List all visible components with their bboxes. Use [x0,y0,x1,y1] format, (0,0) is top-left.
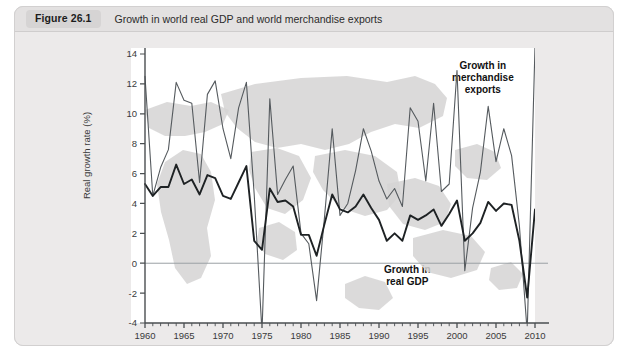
x-tick-label: 1995 [407,330,428,341]
x-tick-label: 2005 [485,330,506,341]
figure-page: Figure 26.1 Growth in world real GDP and… [0,0,632,360]
x-tick-label: 1960 [134,330,155,341]
y-tick-label: -2 [129,288,137,299]
x-tick-label: 1990 [368,330,389,341]
x-tick-label: 1975 [251,330,272,341]
chart-svg: -4-202468101214 196019651970197519801985… [15,32,614,346]
figure-number-badge: Figure 26.1 [26,10,101,28]
y-tick-label: 2 [132,228,137,239]
world-map-watermark [145,76,523,310]
y-tick-label: 0 [132,258,137,269]
x-tick-labels: 1960196519701975198019851990199520002005… [134,330,545,341]
y-tick-label: -4 [129,317,137,328]
y-tick-label: 14 [126,48,137,59]
x-tick-label: 1985 [329,330,350,341]
figure-caption-bar: Figure 26.1 Growth in world real GDP and… [14,6,614,32]
y-tick-label: 4 [132,198,137,209]
y-tick-label: 10 [126,108,137,119]
y-tick-label: 12 [126,78,137,89]
x-tick-label: 1965 [173,330,194,341]
y-tick-label: 6 [132,168,137,179]
chart-container: Real growth rate (%) Growth in merchandi… [14,32,614,346]
x-tick-label: 2000 [446,330,467,341]
x-tick-label: 1980 [290,330,311,341]
x-tick-label: 1970 [212,330,233,341]
figure-title: Growth in world real GDP and world merch… [115,13,383,25]
y-tick-labels: -4-202468101214 [126,48,137,328]
y-tick-label: 8 [132,138,137,149]
x-tick-label: 2010 [524,330,545,341]
